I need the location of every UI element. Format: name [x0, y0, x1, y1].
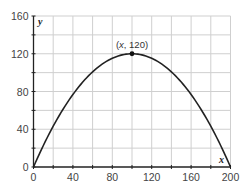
y-tick-label: 80	[17, 86, 29, 98]
y-tick-label: 160	[11, 10, 29, 22]
tick-labels: 0408012016020004080120160	[11, 10, 239, 183]
vertex-point	[130, 51, 135, 56]
x-tick-label: 200	[222, 171, 240, 183]
y-tick-label: 120	[11, 48, 29, 60]
x-tick-label: 40	[67, 171, 79, 183]
x-tick-label: 0	[31, 171, 37, 183]
x-tick-label: 120	[143, 171, 161, 183]
parabola-chart: 0408012016020004080120160 (x, 120) y x	[0, 0, 245, 191]
x-tick-label: 80	[106, 171, 118, 183]
y-axis-label: y	[37, 16, 43, 27]
x-axis-label: x	[218, 154, 224, 165]
vertex-label-rest: , 120)	[124, 39, 148, 50]
y-tick-label: 0	[23, 161, 29, 173]
x-tick-label: 160	[182, 171, 200, 183]
vertex-label: (x, 120)	[116, 39, 148, 50]
y-tick-label: 40	[17, 123, 29, 135]
